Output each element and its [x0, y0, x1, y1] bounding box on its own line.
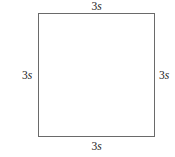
side-label-bottom-variable: s [97, 140, 101, 152]
side-label-left-variable: s [28, 69, 32, 81]
geometry-figure: 3s 3s 3s 3s [0, 0, 175, 157]
square-shape [38, 13, 155, 137]
side-label-top-variable: s [97, 0, 101, 12]
side-label-bottom: 3s [0, 140, 175, 152]
side-label-left: 3s [22, 69, 32, 81]
side-label-right-variable: s [165, 69, 169, 81]
side-label-right: 3s [159, 69, 169, 81]
side-label-top: 3s [0, 0, 175, 12]
